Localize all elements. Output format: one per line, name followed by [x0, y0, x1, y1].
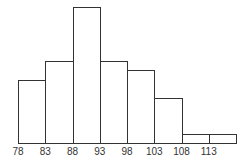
histogram-bar: 9 [100, 61, 128, 144]
x-tick-label: 108 [167, 146, 197, 157]
x-tick-label: 113 [194, 146, 224, 157]
histogram-bar: 15 [73, 7, 101, 144]
x-tick-label: 103 [139, 146, 169, 157]
x-tick-label: 78 [3, 146, 33, 157]
histogram-bar: 1 [182, 134, 210, 144]
histogram-bar: 5 [154, 98, 182, 144]
histogram-bar: 8 [127, 70, 155, 144]
histogram-bar: 7 [18, 80, 46, 144]
histogram-bar: 9 [45, 61, 73, 144]
histogram-bar: 1 [209, 134, 237, 144]
x-tick-label: 98 [112, 146, 142, 157]
x-tick-label: 93 [85, 146, 115, 157]
x-tick-label: 83 [30, 146, 60, 157]
histogram-chart: 7915985117883889398103108113 [0, 0, 247, 162]
x-tick-label: 88 [58, 146, 88, 157]
